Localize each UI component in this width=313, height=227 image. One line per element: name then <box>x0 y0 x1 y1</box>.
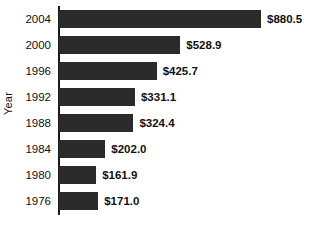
bar-chart: Year 2004$880.52000$528.91996$425.71992$… <box>0 0 313 227</box>
bar-value-label: $331.1 <box>141 88 176 106</box>
bar-row: 1980$161.9 <box>0 162 313 188</box>
bar-row: 2004$880.5 <box>0 6 313 32</box>
bar <box>59 10 261 28</box>
y-tick-label: 1984 <box>0 140 51 158</box>
bar <box>59 88 135 106</box>
bar <box>59 62 157 80</box>
bar <box>59 114 133 132</box>
bar-row: 1984$202.0 <box>0 136 313 162</box>
y-tick-label: 2004 <box>0 10 51 28</box>
plot-area: 2004$880.52000$528.91996$425.71992$331.1… <box>0 0 313 227</box>
y-tick-label: 2000 <box>0 36 51 54</box>
bar-value-label: $880.5 <box>267 10 302 28</box>
bar <box>59 166 96 184</box>
bar-row: 1992$331.1 <box>0 84 313 110</box>
bar-row: 2000$528.9 <box>0 32 313 58</box>
bar-value-label: $528.9 <box>186 36 221 54</box>
y-tick-label: 1992 <box>0 88 51 106</box>
bar <box>59 36 180 54</box>
y-tick-label: 1980 <box>0 166 51 184</box>
bar-value-label: $161.9 <box>102 166 137 184</box>
bar-value-label: $171.0 <box>104 192 139 210</box>
bar-row: 1988$324.4 <box>0 110 313 136</box>
bar-row: 1976$171.0 <box>0 188 313 214</box>
bar <box>59 140 105 158</box>
bar-value-label: $425.7 <box>163 62 198 80</box>
bar-row: 1996$425.7 <box>0 58 313 84</box>
y-tick-label: 1996 <box>0 62 51 80</box>
bar-value-label: $202.0 <box>111 140 146 158</box>
bar <box>59 192 98 210</box>
y-tick-label: 1976 <box>0 192 51 210</box>
y-tick-label: 1988 <box>0 114 51 132</box>
bar-value-label: $324.4 <box>139 114 174 132</box>
